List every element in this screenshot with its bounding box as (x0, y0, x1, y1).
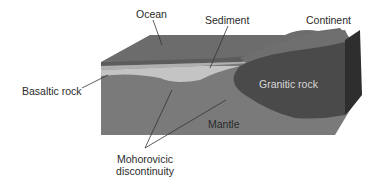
label-ocean: Ocean (136, 8, 167, 20)
label-sediment: Sediment (205, 14, 249, 26)
label-continent: Continent (306, 14, 351, 26)
label-granitic-rock: Granitic rock (259, 78, 318, 90)
label-moho: Mohorovicic discontinuity (112, 153, 178, 177)
label-moho-line2: discontinuity (112, 165, 178, 177)
label-basaltic-rock: Basaltic rock (22, 85, 82, 97)
label-mantle: Mantle (208, 118, 240, 130)
label-moho-line1: Mohorovicic (112, 153, 178, 165)
continent-side-face (345, 30, 362, 115)
